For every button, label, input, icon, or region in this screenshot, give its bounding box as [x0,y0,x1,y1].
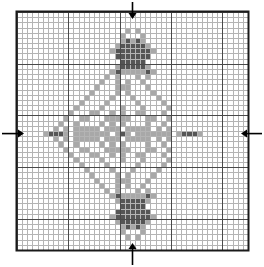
pattern-grid-canvas [0,0,264,267]
cross-stitch-chart [0,0,264,267]
